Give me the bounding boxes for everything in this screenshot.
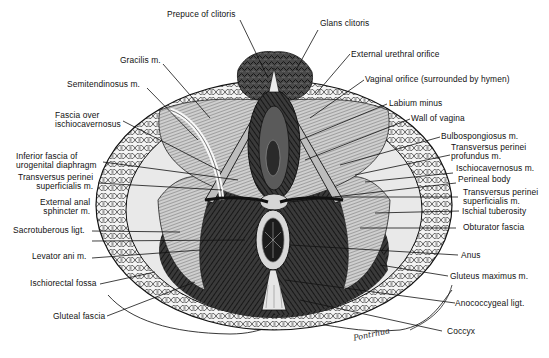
label-labium-minus: Labium minus (389, 99, 442, 108)
label-gluteal-fascia: Gluteal fascia (53, 312, 105, 321)
label-glans-clitoris: Glans clitoris (320, 19, 369, 28)
label-bulbospongiosus: Bulbospongiosus m. (441, 132, 518, 141)
label-line: profundus m. (451, 152, 526, 161)
label-ischiocavernosus: Ischiocavernosus m. (456, 164, 534, 173)
label-ischial-tuberosity: Ischial tuberosity (462, 207, 526, 216)
label-inferior-fascia-urogenital-diaphragm: Inferior fascia of urogenital diaphragm (16, 152, 97, 170)
label-external-anal-sphincter: External anal sphincter m. (40, 198, 90, 216)
label-prepuce-of-clitoris: Prepuce of clitoris (167, 10, 235, 19)
label-gluteus-maximus: Gluteus maximus m. (450, 272, 528, 281)
label-fascia-over-ischiocavernosus: Fascia over ischiocavernosus (55, 111, 121, 129)
label-sacrotuberous-ligament: Sacrotuberous ligt. (13, 226, 85, 235)
label-line: sphincter m. (40, 207, 90, 216)
label-anus: Anus (461, 251, 481, 260)
label-anococcygeal-ligament: Anococcygeal ligt. (455, 299, 524, 308)
label-line: ischiocavernosus (55, 120, 121, 129)
label-transversus-perinei-profundus: Transversus perinei profundus m. (451, 143, 526, 161)
label-transversus-perinei-superficialis-left: Transversus perinei superficialis m. (18, 173, 93, 191)
label-vaginal-orifice: Vaginal orifice (surrounded by hymen) (365, 75, 510, 84)
label-coccyx: Coccyx (447, 327, 475, 336)
label-gracilis: Gracilis m. (120, 56, 161, 65)
label-semitendinosus: Semitendinosus m. (67, 80, 140, 89)
label-obturator-fascia: Obturator fascia (463, 223, 524, 232)
label-levator-ani: Levator ani m. (32, 252, 86, 261)
label-line: urogenital diaphragm (16, 161, 97, 170)
label-ischiorectal-fossa: Ischiorectal fossa (30, 279, 97, 288)
label-transversus-perinei-superficialis-right: Transversus perinei superficialis m. (463, 188, 538, 206)
label-perineal-body: Perineal body (458, 175, 511, 184)
anatomical-figure: Prepuce of clitoris Glans clitoris Graci… (0, 0, 549, 358)
label-wall-of-vagina: Wall of vagina (411, 114, 465, 123)
label-line: superficialis m. (18, 182, 93, 191)
label-external-urethral-orifice: External urethral orifice (351, 50, 440, 59)
